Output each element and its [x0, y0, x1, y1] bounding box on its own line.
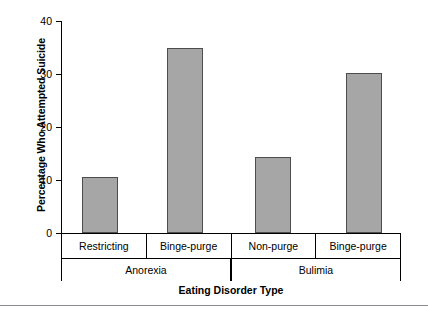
bar-bulimia-non-purge [255, 157, 291, 233]
y-tick-label-0: 0 [22, 228, 52, 239]
bar-anorexia-binge-purge [167, 48, 203, 234]
x-axis-group-anorexia: Anorexia [61, 259, 231, 281]
y-tick-label-30: 30 [22, 69, 52, 80]
x-axis-group-row: Anorexia Bulimia [61, 259, 401, 281]
x-axis-subcategory-restricting: Restricting [61, 233, 146, 259]
y-axis-line [61, 21, 62, 233]
x-axis-subcategory-anorexia-binge-purge: Binge-purge [146, 233, 231, 259]
y-tick-label-20: 20 [22, 122, 52, 133]
y-tick-label-10: 10 [22, 175, 52, 186]
y-tick-mark-30 [56, 74, 61, 75]
y-tick-label-40: 40 [22, 16, 52, 27]
x-axis-subcategory-row: Restricting Binge-purge Non-purge Binge-… [61, 233, 401, 259]
y-tick-mark-40 [56, 21, 61, 22]
page-divider-rule [0, 305, 428, 306]
bar-anorexia-restricting [82, 177, 118, 233]
x-axis-title: Eating Disorder Type [61, 284, 401, 296]
plot-area: 0 10 20 30 40 [61, 21, 401, 233]
x-axis-subcategory-bulimia-binge-purge: Binge-purge [315, 233, 401, 259]
x-axis-group-bulimia: Bulimia [231, 259, 401, 281]
y-tick-mark-20 [56, 127, 61, 128]
bar-bulimia-binge-purge [346, 73, 382, 233]
x-axis-subcategory-non-purge: Non-purge [231, 233, 316, 259]
y-tick-mark-10 [56, 180, 61, 181]
bar-chart-figure: Percentage Who Attempted Suicide 0 10 20… [0, 0, 428, 313]
